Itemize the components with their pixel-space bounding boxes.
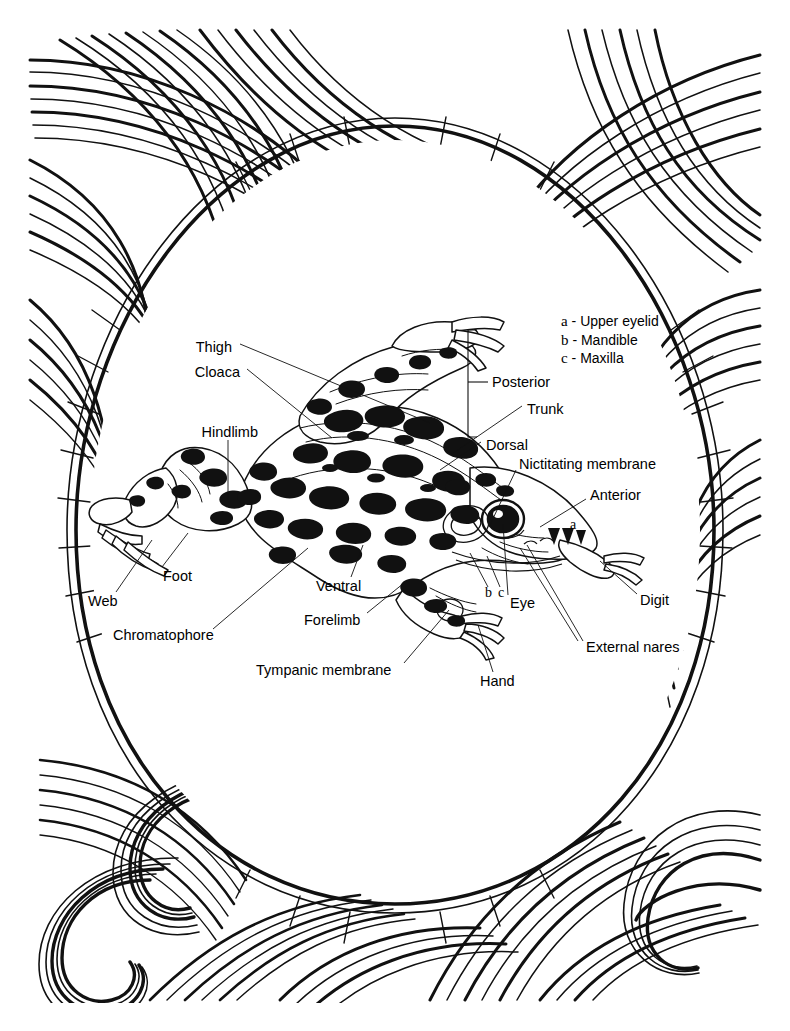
callout-label-chromatophore: Chromatophore <box>113 628 214 643</box>
legend-key-a: a <box>561 313 568 329</box>
callout-label-cloaca: Cloaca <box>195 365 240 380</box>
callout-label-digit: Digit <box>640 593 669 608</box>
page-canvas: Thigh Cloaca Hindlimb Web Foot Chromatop… <box>0 0 790 1031</box>
callout-label-ventral: Ventral <box>316 579 361 594</box>
callout-label-tympanic-membrane: Tympanic membrane <box>256 663 391 678</box>
callout-label-b: b <box>485 586 492 600</box>
callout-label-dorsal: Dorsal <box>486 438 528 453</box>
legend-label-a: Upper eyelid <box>580 313 659 329</box>
callout-label-hindlimb: Hindlimb <box>202 425 258 440</box>
legend-key-b: b <box>561 332 569 348</box>
callout-label-web: Web <box>88 594 118 609</box>
legend-label-c: Maxilla <box>580 350 624 366</box>
legend-key-c: c <box>561 350 568 366</box>
legend-dash-b: - <box>572 332 577 348</box>
callout-label-foot: Foot <box>163 569 192 584</box>
callout-label-thigh: Thigh <box>196 340 232 355</box>
callout-label-nictitating-membrane: Nictitating membrane <box>519 457 656 472</box>
callout-label-external-nares: External nares <box>586 640 680 655</box>
legend-item-c: c - Maxilla <box>561 349 659 368</box>
callout-label-forelimb: Forelimb <box>304 613 360 628</box>
legend-item-a: a - Upper eyelid <box>561 312 659 331</box>
callout-label-hand: Hand <box>480 674 515 689</box>
callout-label-c: c <box>498 586 504 600</box>
legend-label-b: Mandible <box>581 332 638 348</box>
callout-label-posterior: Posterior <box>492 375 550 390</box>
legend: a - Upper eyelid b - Mandible c - Maxill… <box>561 312 659 368</box>
callout-label-a: a <box>570 518 576 532</box>
legend-item-b: b - Mandible <box>561 331 659 350</box>
callout-label-anterior: Anterior <box>590 488 641 503</box>
legend-dash-a: - <box>572 313 577 329</box>
frog-anatomy-figure <box>0 0 790 1031</box>
callout-label-trunk: Trunk <box>527 402 564 417</box>
legend-dash-c: - <box>572 350 577 366</box>
callout-label-eye: Eye <box>510 596 535 611</box>
